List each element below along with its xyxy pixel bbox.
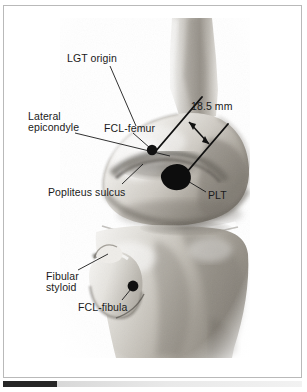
leader-fcl-fibula (122, 289, 131, 300)
dimension-arrow-18-5-mm (189, 122, 209, 144)
label-fcl-femur: FCL-femur (104, 123, 155, 135)
annotation-overlay (0, 0, 307, 392)
label-lgt-origin: LGT origin (67, 53, 117, 65)
leader-lgt-origin (110, 66, 136, 126)
scale-bar-remainder (57, 381, 302, 387)
label-lateral-epicondyle-line2: epicondyle (28, 122, 79, 134)
figure-page: LGT origin Lateral epicondyle FCL-femur … (0, 0, 307, 392)
plt-marker (161, 164, 191, 190)
leader-fibular-styloid (78, 254, 108, 270)
scale-bar (3, 381, 57, 387)
leader-popliteus-sulcus (122, 164, 143, 184)
fcl-femur-marker (147, 145, 157, 155)
fcl-fibula-marker (128, 281, 139, 292)
label-fcl-fibula: FCL-fibula (78, 302, 127, 314)
label-popliteus-sulcus: Popliteus sulcus (48, 187, 125, 199)
label-measurement-18-5-mm: 18.5 mm (191, 101, 233, 113)
label-fibular-styloid-line2: styloid (46, 282, 76, 294)
label-plt: PLT (208, 190, 227, 202)
leader-fcl-femur (133, 133, 150, 148)
